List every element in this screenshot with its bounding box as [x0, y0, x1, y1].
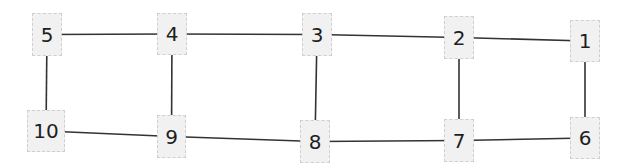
- node-3: 3: [302, 13, 332, 56]
- node-1: 1: [570, 20, 600, 62]
- node-10: 10: [27, 110, 65, 152]
- edge-8-7: [315, 141, 459, 142]
- edge-7-6: [459, 138, 585, 141]
- node-6: 6: [570, 117, 600, 159]
- edge-3-2: [317, 35, 459, 38]
- node-8: 8: [300, 120, 330, 163]
- node-7: 7: [444, 119, 474, 162]
- node-2: 2: [444, 16, 474, 59]
- node-5: 5: [32, 13, 62, 56]
- edge-5-4: [47, 34, 172, 35]
- node-4: 4: [157, 13, 187, 55]
- node-9: 9: [157, 115, 186, 158]
- edge-2-1: [459, 38, 585, 42]
- graph-diagram: 12345678910: [0, 0, 623, 168]
- edge-4-3: [172, 34, 317, 35]
- edge-9-8: [172, 137, 316, 142]
